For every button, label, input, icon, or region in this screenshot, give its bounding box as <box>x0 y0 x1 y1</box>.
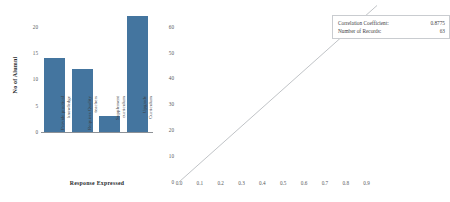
line-chart-panel: 0102030405060 0.00.10.20.30.40.50.60.70.… <box>160 0 449 202</box>
bar-chart-x-tick-label: Supplement curriculum <box>115 96 127 136</box>
bar-chart-y-tick-label: 10 <box>27 76 38 82</box>
bar-chart-y-tick-label: 0 <box>27 129 38 135</box>
line-chart-y-tick-label: 40 <box>160 75 174 81</box>
line-chart-x-tick-label: 0.7 <box>322 180 328 186</box>
bar-chart-y-axis-title: No of Alumni <box>12 49 18 101</box>
correlation-coefficient-value: 0.8775 <box>430 19 445 27</box>
bar-chart-x-tick-label: Requires Quality teachers <box>87 96 99 136</box>
number-of-records-label: Number of Records: <box>338 27 385 35</box>
line-chart-x-tick-label: 0.4 <box>259 180 265 186</box>
line-chart-x-tick-label: 0.2 <box>217 180 223 186</box>
line-chart-x-tick-label: 0.1 <box>197 180 203 186</box>
statistics-annotation-box: Correlation Coefficient: 0.8775 Number o… <box>332 15 450 39</box>
correlation-coefficient-row: Correlation Coefficient: 0.8775 <box>338 19 445 27</box>
number-of-records-row: Number of Records: 63 <box>338 27 445 35</box>
line-chart-y-tick-label: 20 <box>160 127 174 133</box>
line-chart-y-tick-label: 50 <box>160 50 174 56</box>
line-chart-x-tick-label: 0.9 <box>363 180 369 186</box>
line-chart-x-tick-label: 0.6 <box>301 180 307 186</box>
line-chart-y-tick-label: 0 <box>160 179 174 185</box>
line-chart-y-tick-label: 10 <box>160 153 174 159</box>
bar-chart-x-axis-title: Response Expressed <box>41 180 153 186</box>
bar-chart-panel: No of Alumni 05101520 Provide practical … <box>0 0 180 202</box>
bar-chart-y-tick-label: 20 <box>27 24 38 30</box>
line-chart-x-tick-label: 0.3 <box>238 180 244 186</box>
bar-chart-y-tick-label: 15 <box>27 50 38 56</box>
line-chart-x-tick-label: 0.8 <box>342 180 348 186</box>
line-chart-x-tick-label: 0.5 <box>280 180 286 186</box>
bar-chart-y-tick-label: 5 <box>27 103 38 109</box>
bar-chart-x-tick-label: Upgrade Curriculum <box>142 96 154 136</box>
bar-chart-x-tick-label: Provide practical knowledge <box>60 96 72 136</box>
line-chart-y-tick-label: 30 <box>160 101 174 107</box>
correlation-coefficient-label: Correlation Coefficient: <box>338 19 393 27</box>
line-chart-y-tick-label: 60 <box>160 24 174 30</box>
number-of-records-value: 63 <box>440 27 445 35</box>
line-chart-x-tick-label: 0.0 <box>176 180 182 186</box>
